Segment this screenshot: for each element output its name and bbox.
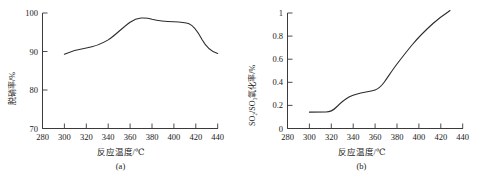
x-tick-label: 380 [391,132,404,142]
chart-panel-a: 脱硝率/% [0,0,241,181]
x-tick-label: 440 [456,132,469,142]
x-tick-label: 300 [58,132,71,142]
figure-container: 脱硝率/% [0,0,482,181]
y-tick-labels-a: 70 80 90 100 [25,8,38,134]
y-tick-label: 0.8 [272,31,283,41]
x-tick-label: 280 [36,132,49,142]
axis-lines-a [43,13,219,129]
x-tick-label: 400 [168,132,181,142]
x-tick-label: 300 [303,132,316,142]
x-tick-label: 340 [102,132,115,142]
x-tick-labels-b: 280 300 320 340 360 380 400 420 440 [281,132,469,142]
data-curve-a [64,18,217,54]
x-tick-label: 320 [80,132,93,142]
x-tick-label: 420 [434,132,447,142]
panel-caption-b: (b) [241,161,482,171]
data-curve-b [309,11,450,113]
y-tick-label: 100 [25,8,38,18]
y-ticks-b [288,13,293,129]
x-tick-label: 360 [369,132,382,142]
x-tick-label: 440 [211,132,224,142]
x-tick-label: 420 [189,132,202,142]
y-tick-label: 1 [279,8,283,18]
x-tick-label: 400 [413,132,426,142]
y-tick-label: 0.2 [272,100,283,110]
y-axis-label-b: SO₂/SO₃氧化率/% [246,65,257,126]
x-axis-label-b: 反应温度/℃ [241,145,482,157]
y-tick-label: 70 [30,124,39,134]
chart-panel-b: SO₂/SO₃氧化率/% [241,0,482,181]
y-tick-label: 0 [279,124,283,134]
axis-lines-b [288,13,464,129]
x-tick-label: 380 [146,132,159,142]
y-tick-label: 90 [30,47,39,57]
x-axis-label-a: 反应温度/℃ [0,145,241,157]
panel-caption-a: (a) [0,161,241,171]
x-tick-label: 340 [347,132,360,142]
y-ticks-a [43,13,48,129]
y-tick-label: 0.4 [272,77,283,87]
y-tick-label: 0.6 [272,54,283,64]
x-ticks-a [43,124,218,129]
y-tick-label: 80 [30,85,39,95]
x-ticks-b [288,124,463,129]
x-tick-label: 280 [281,132,294,142]
x-tick-label: 320 [325,132,338,142]
y-axis-label-a: 脱硝率/% [6,72,17,105]
y-tick-labels-b: 0 0.2 0.4 0.6 0.8 1 [272,8,283,134]
x-tick-labels-a: 280 300 320 340 360 380 400 420 440 [36,132,224,142]
x-tick-label: 360 [124,132,137,142]
